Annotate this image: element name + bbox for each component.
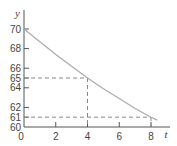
y-axis-label: y (14, 7, 20, 19)
y-tick-label: 70 (10, 24, 22, 35)
x-axis-label: t (164, 128, 168, 140)
x-tick-label: 2 (53, 131, 59, 142)
y-tick-label: 61 (10, 112, 22, 123)
y-tick-label: 62 (10, 102, 22, 113)
x-tick-label: 0 (18, 131, 24, 142)
y-tick-label: 65 (10, 73, 22, 84)
x-tick-label: 4 (85, 131, 91, 142)
y-tick-label: 64 (10, 82, 22, 93)
y-tick-label: 68 (10, 43, 22, 54)
data-curve (24, 29, 157, 120)
chart: 024686061626465666870ty (0, 0, 177, 146)
y-tick-label: 60 (10, 122, 22, 133)
x-tick-label: 8 (148, 131, 154, 142)
y-tick-label: 66 (10, 63, 22, 74)
x-tick-label: 6 (116, 131, 122, 142)
